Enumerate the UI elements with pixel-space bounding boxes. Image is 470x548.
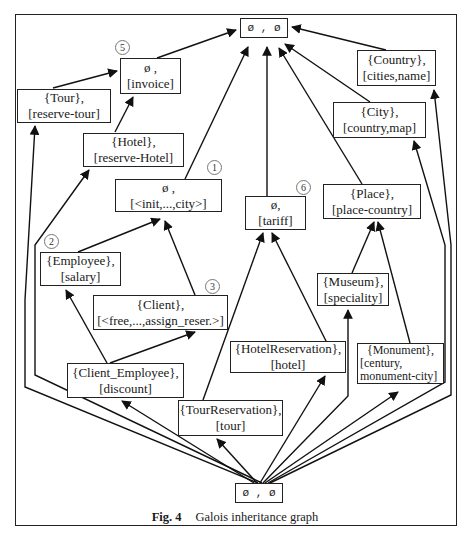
node-country[interactable]: {Country}, [cities,name] bbox=[357, 50, 436, 86]
node-tariff-line2: [tariff] bbox=[246, 213, 305, 229]
edge-museum-place bbox=[352, 222, 374, 273]
node-invoice-line2: [invoice] bbox=[121, 76, 180, 92]
node-tour-line2: [reserve-tour] bbox=[18, 106, 110, 122]
node-hotel-reservation[interactable]: {HotelReservation}, [hotel] bbox=[230, 341, 346, 373]
node-tour-reservation[interactable]: {TourReservation}, [tour] bbox=[178, 400, 283, 436]
node-hotel-line2: [reserve-Hotel] bbox=[84, 150, 183, 166]
edge-client-init bbox=[165, 221, 195, 295]
caption-label: Fig. 4 bbox=[152, 510, 182, 524]
node-init-line2: [<init,...,city>] bbox=[116, 196, 221, 212]
node-clientemp-line2: [discount] bbox=[68, 381, 183, 397]
node-place-line1: {Place}, bbox=[324, 186, 420, 202]
edge-country-top bbox=[292, 27, 386, 50]
node-invoice-line1: ø , bbox=[121, 60, 180, 76]
edge-tour-invoice bbox=[53, 71, 117, 88]
node-place[interactable]: {Place}, [place-country] bbox=[323, 184, 421, 219]
caption-text: Galois inheritance graph bbox=[195, 510, 318, 524]
node-tourres-line2: [tour] bbox=[179, 418, 282, 434]
node-country-line2: [cities,name] bbox=[358, 68, 435, 84]
node-tour-line1: {Tour}, bbox=[18, 90, 110, 106]
node-tariff-line1: ø, bbox=[246, 197, 305, 213]
node-top[interactable]: ø , ø bbox=[240, 18, 288, 38]
node-invoice[interactable]: ø , [invoice] bbox=[120, 58, 181, 94]
node-clientemp-line1: {Client_Employee}, bbox=[68, 365, 183, 381]
badge-6: 6 bbox=[296, 180, 311, 195]
node-top-label: ø , ø bbox=[241, 20, 287, 36]
node-museum-line2: [speciality] bbox=[318, 290, 388, 306]
edge-hotel-invoice bbox=[115, 97, 133, 132]
node-hotelres-line2: [hotel] bbox=[231, 357, 345, 373]
node-employee-line2: [salary] bbox=[41, 269, 120, 285]
node-client[interactable]: {Client}, [<free,...,assign_reser.>] bbox=[93, 295, 228, 330]
node-museum[interactable]: {Museum}, [speciality] bbox=[317, 273, 389, 306]
node-hotel-line1: {Hotel}, bbox=[84, 134, 183, 150]
node-country-line1: {Country}, bbox=[358, 52, 435, 68]
node-place-line2: [place-country] bbox=[324, 202, 420, 218]
node-tourres-line1: {TourReservation}, bbox=[179, 402, 282, 418]
node-client-line1: {Client}, bbox=[94, 297, 227, 313]
node-city[interactable]: {City}, [country,map] bbox=[333, 102, 426, 138]
node-employee-line1: {Employee}, bbox=[41, 253, 120, 269]
edge-employee-init bbox=[78, 219, 160, 252]
badge-2: 2 bbox=[44, 234, 59, 249]
node-tour[interactable]: {Tour}, [reserve-tour] bbox=[17, 89, 111, 123]
figure-caption: Fig. 4Galois inheritance graph bbox=[0, 510, 470, 525]
node-client-line2: [<free,...,assign_reser.>] bbox=[94, 313, 227, 329]
edge-invoice-top bbox=[157, 30, 236, 58]
edge-init-top bbox=[185, 47, 248, 179]
node-monument[interactable]: {Monument}, [century, monument-city] bbox=[357, 343, 444, 384]
node-bottom[interactable]: ø , ø bbox=[235, 483, 283, 503]
edge-clientemp-client bbox=[110, 332, 195, 363]
node-tariff[interactable]: ø, [tariff] bbox=[245, 196, 306, 230]
node-bottom-label: ø , ø bbox=[236, 485, 282, 501]
node-hotel[interactable]: {Hotel}, [reserve-Hotel] bbox=[83, 133, 184, 167]
node-hotelres-line1: {HotelReservation}, bbox=[231, 341, 345, 357]
badge-3: 3 bbox=[205, 279, 220, 294]
edge-bottom-monument bbox=[265, 392, 398, 483]
node-employee[interactable]: {Employee}, [salary] bbox=[40, 252, 121, 286]
node-init[interactable]: ø , [<init,...,city>] bbox=[115, 179, 222, 212]
edge-bottom-tourres bbox=[217, 439, 257, 483]
badge-1: 1 bbox=[207, 160, 222, 175]
node-city-line1: {City}, bbox=[334, 104, 425, 120]
badge-5: 5 bbox=[115, 40, 130, 55]
node-client-employee[interactable]: {Client_Employee}, [discount] bbox=[67, 363, 184, 398]
node-city-line2: [country,map] bbox=[334, 120, 425, 136]
node-museum-line1: {Museum}, bbox=[318, 274, 388, 290]
node-init-line1: ø , bbox=[116, 180, 221, 196]
node-monument-line3: monument-city] bbox=[358, 370, 443, 383]
